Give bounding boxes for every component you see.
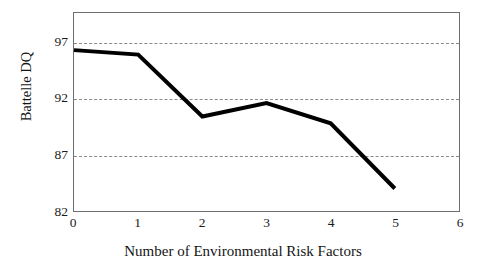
x-tick-label-4: 4 — [316, 216, 346, 230]
y-tick-label-97: 97 — [8, 35, 68, 49]
battelle-dq-line — [74, 50, 395, 188]
y-tick-label-87: 87 — [8, 148, 68, 162]
x-axis-title: Number of Environmental Risk Factors — [0, 243, 486, 260]
x-tick-label-0: 0 — [58, 216, 88, 230]
y-tick-label-92: 92 — [8, 91, 68, 105]
x-tick-label-3: 3 — [252, 216, 282, 230]
x-tick-label-6: 6 — [445, 216, 475, 230]
data-series-line — [74, 13, 459, 211]
chart-figure: Battelle DQ 82879297 0123456 Number of E… — [0, 0, 486, 271]
y-axis-tick-labels: 82879297 — [0, 12, 68, 212]
plot-area — [73, 12, 460, 212]
x-axis-tick-labels: 0123456 — [73, 216, 460, 236]
x-tick-label-1: 1 — [123, 216, 153, 230]
x-tick-label-5: 5 — [381, 216, 411, 230]
x-tick-label-2: 2 — [187, 216, 217, 230]
